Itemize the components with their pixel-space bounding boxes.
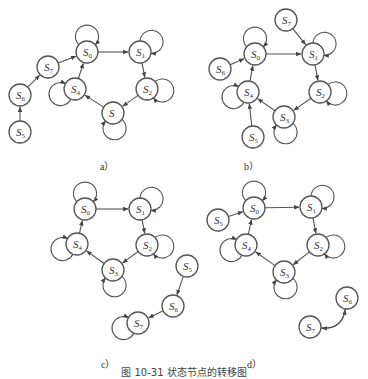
state-node-c-S6: S6 [162, 295, 184, 317]
state-node-c-S4: S4 [66, 233, 88, 255]
panel-label-b: b） [244, 158, 259, 173]
edge-c-S4-S0 [79, 221, 82, 234]
edge-d-S6-S7 [322, 309, 345, 328]
edge-d-S1-S2 [313, 218, 316, 233]
edge-a-S1-S2 [142, 63, 145, 77]
edge-b-S4-S0 [250, 66, 253, 81]
state-node-b-S3: S3 [273, 106, 295, 128]
state-node-c-S0: S0 [74, 198, 96, 220]
edge-d-S5-S0 [228, 212, 242, 217]
edge-c-S2-S3 [123, 252, 138, 263]
edge-b-S5-S4 [249, 104, 251, 126]
state-node-a-S7: S7 [37, 56, 59, 78]
edge-a-S3-S4 [85, 95, 104, 107]
state-node-b-S6: S6 [209, 58, 231, 80]
edge-c-S5-S6 [177, 276, 183, 294]
edge-c-S3-S4 [87, 251, 104, 264]
state-node-c-S2: S2 [136, 234, 158, 256]
state-node-a-S6: S6 [9, 84, 31, 106]
state-node-c-S1: S1 [129, 198, 151, 220]
state-node-a-S0: S0 [76, 41, 98, 63]
state-node-c-S7: S7 [127, 312, 149, 334]
nodes-layer: S0S1S2SS4S5S6S7S0S1S2S3S4S5S6S7S0S1S2S3S… [9, 9, 358, 338]
state-node-d-S6: S6 [336, 287, 358, 309]
state-node-d-S5: S5 [207, 209, 229, 231]
state-node-a-S2: S2 [136, 78, 158, 100]
state-node-d-S4: S4 [235, 234, 257, 256]
state-node-b-S0: S0 [244, 43, 266, 65]
edge-c-S6-S7 [149, 311, 163, 318]
state-node-d-S2: S2 [307, 234, 329, 256]
edge-a-S2-S3 [123, 95, 138, 106]
edge-d-S2-S3 [293, 252, 309, 265]
edge-a-S7-S0 [58, 56, 76, 63]
state-node-c-S5: S5 [176, 255, 198, 277]
edge-a-S6-S7 [28, 75, 40, 87]
edges-layer [20, 25, 347, 339]
figure-caption: 图 10-31 状态节点的转移图 [0, 364, 368, 379]
edge-b-S7-S1 [293, 29, 306, 45]
edge-d-S4-S0 [248, 220, 251, 235]
state-node-b-S4: S4 [237, 81, 259, 103]
state-node-a-S3: S [102, 102, 124, 124]
edge-d-S0-S1 [265, 207, 299, 208]
panel-label-a: a） [100, 158, 114, 173]
node-label: S [109, 107, 115, 119]
state-node-b-S2: S2 [309, 81, 331, 103]
edge-b-S1-S2 [315, 65, 318, 80]
state-node-a-S5: S5 [9, 121, 31, 143]
state-node-b-S7: S7 [275, 9, 297, 31]
state-node-b-S5: S5 [242, 126, 264, 148]
edge-b-S2-S3 [294, 98, 311, 110]
state-node-a-S1: S1 [129, 41, 151, 63]
edge-a-S4-S0 [78, 63, 83, 78]
state-node-d-S3: S3 [273, 261, 295, 283]
state-node-c-S3: S3 [102, 259, 124, 281]
state-node-b-S1: S1 [302, 43, 324, 65]
state-node-d-S0: S0 [243, 197, 265, 219]
state-node-a-S4: S4 [64, 78, 86, 100]
state-node-d-S7: S7 [299, 316, 321, 338]
state-node-d-S1: S1 [300, 196, 322, 218]
edge-b-S3-S4 [258, 99, 275, 111]
edge-c-S1-S2 [142, 220, 145, 233]
edge-b-S6-S0 [230, 59, 244, 65]
edge-d-S3-S4 [256, 252, 275, 266]
